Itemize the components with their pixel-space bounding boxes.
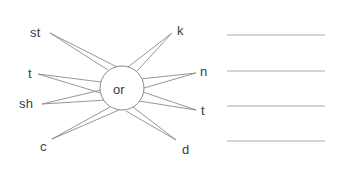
spoke-st-line-2 [50, 33, 117, 67]
spoke-c-line-1 [52, 107, 110, 139]
center-word-label: or [113, 83, 125, 96]
spoke-n-label: n [200, 65, 207, 78]
spoke-sh-label: sh [19, 97, 33, 110]
spoke-t-left-line-2 [38, 74, 104, 94]
spoke-d-label: d [182, 143, 189, 156]
spoke-d-line-2 [126, 111, 176, 140]
spoke-k-label: k [177, 24, 184, 37]
spoke-st-label: st [30, 26, 41, 39]
spoke-d-line-1 [133, 107, 176, 140]
spoke-k-line-1 [128, 33, 172, 67]
spoke-t-right-line-1 [143, 92, 196, 110]
word-web-worksheet: or sttshckntd [0, 0, 346, 172]
spoke-t-left-label: t [28, 67, 32, 80]
word-web-diagram [0, 0, 346, 172]
spoke-k-line-2 [137, 33, 172, 71]
spoke-n-line-1 [140, 73, 196, 79]
spoke-n-line-2 [144, 73, 196, 88]
spoke-t-right-label: t [201, 104, 205, 117]
writing-lines-group [227, 35, 325, 141]
spoke-t-left-line-1 [38, 74, 101, 82]
spoke-c-line-2 [52, 110, 119, 139]
spoke-st-line-1 [50, 33, 108, 70]
spoke-t-right-line-2 [139, 101, 196, 110]
spoke-c-label: c [40, 140, 47, 153]
